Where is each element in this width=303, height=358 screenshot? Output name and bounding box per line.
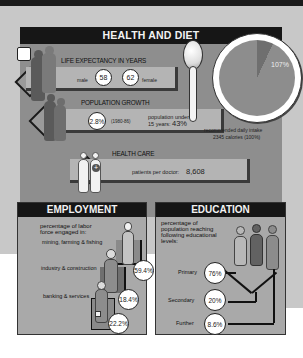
sector-label-banking: banking & services bbox=[43, 293, 89, 299]
health-care-title: HEALTH CARE bbox=[112, 149, 154, 158]
daily-intake-caption-line2: 2345 calories (100%) bbox=[213, 134, 260, 140]
employment-title: EMPLOYMENT bbox=[18, 203, 146, 217]
tree-connector bbox=[273, 269, 275, 323]
banker-icon bbox=[95, 289, 108, 323]
spoon-handle-icon bbox=[189, 66, 197, 122]
background-edge bbox=[286, 254, 303, 308]
level-value-further: 8.6% bbox=[204, 313, 226, 335]
medical-cross-icon: + bbox=[92, 164, 100, 172]
calendar-icon bbox=[17, 47, 31, 61]
female-life-expectancy: 62 bbox=[122, 69, 139, 86]
population-growth-rate: 2.8% bbox=[88, 112, 106, 130]
level-label-secondary: Secondary bbox=[168, 297, 194, 303]
female-label: female bbox=[142, 77, 157, 83]
level-value-primary: 76% bbox=[204, 262, 226, 284]
education-description-line4: levels: bbox=[161, 238, 178, 245]
banker-head-icon bbox=[97, 281, 106, 290]
population-growth-title: POPULATION GROWTH bbox=[81, 98, 150, 107]
student-head-icon bbox=[236, 226, 245, 235]
daily-intake-caption-line1: recommended daily intake bbox=[204, 127, 262, 133]
farmer-icon bbox=[122, 231, 134, 265]
level-label-further: Further bbox=[176, 320, 194, 326]
population-growth-period: (1980-86) bbox=[111, 119, 131, 124]
student-head-icon bbox=[252, 224, 261, 233]
employment-description-line2: force engaged in: bbox=[40, 229, 86, 236]
level-label-primary: Primary bbox=[178, 269, 197, 275]
farmer-head-icon bbox=[124, 222, 132, 231]
sector-label-mining: mining, farming & fishing bbox=[42, 239, 102, 245]
doctor-icon bbox=[78, 159, 89, 193]
daily-intake-pie-chart bbox=[219, 40, 295, 116]
student-icon bbox=[250, 234, 263, 266]
tree-connector bbox=[228, 301, 256, 303]
briefcase-icon bbox=[95, 311, 101, 317]
under15-label-line2: 15 years: bbox=[148, 121, 171, 127]
tree-connector bbox=[226, 272, 236, 274]
doctor-head-icon bbox=[80, 152, 87, 159]
sector-value-mining: 59.4% bbox=[133, 260, 154, 281]
construction-worker-icon bbox=[104, 259, 118, 293]
patients-per-doctor-value: 8,608 bbox=[186, 167, 205, 176]
person-head-icon bbox=[47, 94, 55, 102]
person-head-icon bbox=[45, 46, 54, 55]
tree-connector bbox=[228, 323, 274, 325]
male-label: male bbox=[77, 77, 88, 83]
patients-per-doctor-label: patients per doctor: bbox=[132, 169, 179, 175]
person-icon bbox=[54, 105, 66, 141]
student-icon bbox=[234, 236, 247, 266]
person-icon bbox=[42, 53, 56, 93]
population-growth-bar bbox=[44, 109, 224, 133]
nurse-head-icon bbox=[92, 152, 99, 159]
hard-hat-icon bbox=[106, 249, 116, 259]
pie-value-label: 107% bbox=[271, 61, 289, 68]
employment-panel: EMPLOYMENT percentage of labor force eng… bbox=[17, 202, 147, 335]
student-head-icon bbox=[268, 225, 277, 234]
person-head-icon bbox=[57, 98, 65, 106]
student-icon bbox=[266, 235, 279, 270]
education-title: EDUCATION bbox=[156, 203, 285, 217]
education-panel: EDUCATION percentage of population reach… bbox=[155, 202, 286, 335]
daily-intake-plate: 107% bbox=[212, 33, 302, 123]
sector-value-banking: 22.2% bbox=[108, 313, 129, 334]
life-expectancy-title: LIFE EXPECTANCY IN YEARS bbox=[61, 56, 146, 65]
sector-value-industry: 18.4% bbox=[118, 289, 139, 310]
under15-value: 43% bbox=[172, 119, 187, 128]
level-value-secondary: 20% bbox=[204, 289, 226, 311]
sector-label-industry: industry & construction bbox=[41, 265, 97, 271]
male-life-expectancy: 58 bbox=[95, 69, 112, 86]
